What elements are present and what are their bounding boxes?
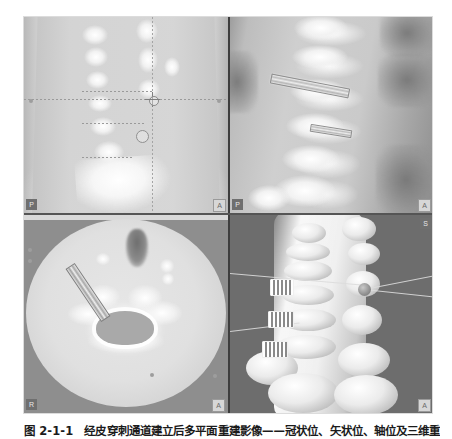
reference-line-horizontal xyxy=(24,99,228,100)
vertebra-shadow xyxy=(96,253,110,265)
edge-tick-left xyxy=(28,259,32,263)
bone-surface-lump xyxy=(334,375,398,413)
vertebra-shadow xyxy=(160,259,174,273)
cannula-marker xyxy=(270,279,294,296)
bone-surface-lump xyxy=(338,343,390,377)
vertebra-shadow xyxy=(248,185,290,211)
vertebra-shadow xyxy=(292,45,348,69)
orientation-badge-right: R xyxy=(26,399,37,410)
figure-caption: 图 2-1-1 经皮穿刺通道建立后多平面重建影像——冠状位、矢状位、轴位及三维重… xyxy=(24,424,440,439)
panel-divider-horizontal xyxy=(24,213,432,215)
panel-coronal[interactable]: P A xyxy=(24,17,228,213)
reference-line-horizontal xyxy=(82,123,146,124)
orientation-badge-anterior: A xyxy=(418,199,431,212)
bone-surface-lump xyxy=(292,223,326,243)
vertebra-shadow xyxy=(90,117,116,136)
marker-ring-icon[interactable] xyxy=(136,130,149,143)
vertebra-shadow xyxy=(282,145,340,173)
panel-volume-3d[interactable]: S A xyxy=(230,215,432,413)
reference-line-horizontal xyxy=(82,157,134,158)
crosshair-target-icon[interactable] xyxy=(145,92,160,107)
edge-tick-right xyxy=(217,99,221,103)
bone-surface-lump xyxy=(268,373,338,413)
vertebra-shadow xyxy=(164,57,180,77)
orientation-badge-posterior: P xyxy=(232,199,243,210)
orientation-badge-anterior: A xyxy=(418,399,431,412)
vertebra-shadow xyxy=(88,95,112,112)
edge-tick-left xyxy=(29,99,33,103)
ct-navigation-figure: P A P A xyxy=(24,17,432,413)
panel-axial[interactable]: R A xyxy=(24,215,228,413)
bone-surface-lump xyxy=(342,305,382,335)
vertebra-shadow xyxy=(162,273,174,285)
edge-tick-left xyxy=(28,248,32,252)
reference-line-horizontal xyxy=(82,91,152,92)
panel-divider-vertical xyxy=(228,17,230,413)
cannula-marker xyxy=(268,311,294,328)
bone-surface-lump xyxy=(342,217,376,241)
orientation-badge-anterior: A xyxy=(213,199,226,212)
bone-surface-lump xyxy=(286,243,330,261)
vertebra-shadow xyxy=(138,47,158,73)
bone-surface-lump xyxy=(348,243,380,265)
vertebra-shadow xyxy=(86,71,109,89)
figure-caption-clip: 图 2-1-1 经皮穿刺通道建立后多平面重建影像——冠状位、矢状位、轴位及三维重… xyxy=(24,424,440,439)
gas-shadow xyxy=(126,229,148,267)
orientation-badge-superior: S xyxy=(420,218,431,229)
soft-tissue-shadow xyxy=(230,51,258,113)
vertebra-shadow xyxy=(82,25,108,45)
sacrum-shadow xyxy=(74,154,174,213)
vertebra-shadow xyxy=(136,19,158,43)
edge-tick-bottom xyxy=(213,374,217,378)
figure-page: P A P A xyxy=(0,0,452,439)
cannula-marker xyxy=(262,341,288,358)
crosshair-ring xyxy=(149,96,159,106)
soft-tissue-shadow xyxy=(378,53,432,107)
panel-sagittal[interactable]: P A xyxy=(230,17,432,213)
orientation-badge-anterior: A xyxy=(212,399,225,412)
reference-line-vertical xyxy=(152,17,153,213)
edge-tick-bottom xyxy=(150,373,154,377)
vertebra-shadow xyxy=(84,47,108,67)
soft-tissue-shadow xyxy=(380,17,432,57)
target-node-marker[interactable] xyxy=(358,283,371,296)
orientation-badge-posterior: P xyxy=(26,199,37,210)
